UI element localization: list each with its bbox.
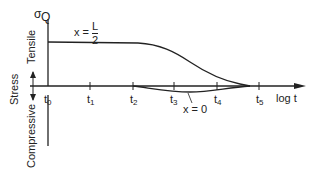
stress-label: Stress	[9, 74, 20, 105]
tick-subscript: 2	[133, 98, 137, 107]
tensile-arrow-icon	[30, 71, 36, 78]
compressive-label: Compressive	[26, 104, 37, 168]
tick-label-t0: t0	[44, 94, 52, 107]
tick-subscript: 0	[47, 98, 51, 107]
compressive-arrow-icon	[30, 94, 36, 101]
curve-label-x0: x = 0	[183, 104, 207, 115]
fraction-numerator: L	[92, 21, 98, 32]
tensile-label: Tensile	[26, 30, 37, 64]
curve-label-fraction: L 2	[92, 21, 98, 46]
curve-x-L-over-2	[48, 42, 250, 86]
tick-subscript: 4	[217, 98, 221, 107]
tick-subscript: 5	[259, 98, 263, 107]
tick-label-t2: t2	[130, 94, 138, 107]
tick-subscript: 3	[173, 98, 177, 107]
tick-label-t4: t4	[214, 94, 222, 107]
x-axis-label: log t	[276, 93, 297, 104]
fraction-denominator: 2	[92, 35, 98, 46]
origin-marker-q: Q	[41, 11, 50, 23]
tick-label-t3: t3	[170, 94, 178, 107]
x-axis-arrow-icon	[294, 83, 306, 89]
curve-x-0	[133, 86, 250, 92]
stress-time-diagram	[0, 0, 315, 173]
x0-leader-line	[188, 93, 192, 103]
tick-label-t1: t1	[87, 94, 95, 107]
tick-label-t5: t5	[256, 94, 264, 107]
tick-subscript: 1	[90, 98, 94, 107]
curve-label-prefix: x =	[74, 27, 89, 38]
